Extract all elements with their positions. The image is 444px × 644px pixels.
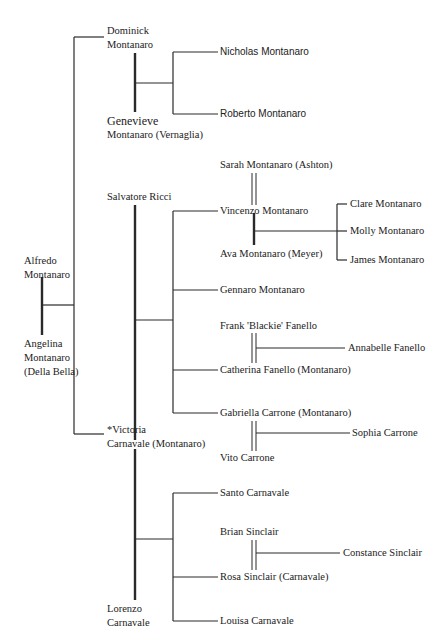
surname: Montanaro (Vernaglia) [107, 128, 203, 142]
person-louisa: Louisa Carnavale [220, 614, 294, 628]
person-brian: Brian Sinclair [220, 525, 279, 539]
person-catherina: Catherina Fanello (Montanaro) [220, 363, 351, 377]
person-rosa: Rosa Sinclair (Carnavale) [220, 570, 328, 584]
person-gabriella: Gabriella Carrone (Montanaro) [220, 406, 351, 420]
person-molly: Molly Montanaro [350, 224, 424, 238]
first-name: Angelina [24, 337, 79, 351]
person-annabelle: Annabelle Fanello [348, 341, 425, 355]
person-clare: Clare Montanaro [350, 197, 421, 211]
first-name: Genevieve [107, 114, 203, 128]
person-lorenzo: Lorenzo Carnavale [107, 602, 150, 630]
first-name: Alfredo [24, 254, 70, 268]
person-salvatore: Salvatore Ricci [107, 190, 171, 204]
person-vincenzo: Vincenzo Montanaro [220, 204, 308, 218]
family-tree-diagram: Alfredo Montanaro Angelina Montanaro (De… [0, 0, 444, 644]
person-dominick: Dominick Montanaro [107, 24, 153, 52]
person-sarah: Sarah Montanaro (Ashton) [220, 158, 333, 172]
person-victoria: *Victoria Carnavale (Montanaro) [107, 423, 205, 451]
person-alfredo: Alfredo Montanaro [24, 254, 70, 282]
surname: Montanaro [24, 268, 70, 282]
person-gennaro: Gennaro Montanaro [220, 283, 305, 297]
person-genevieve: Genevieve Montanaro (Vernaglia) [107, 114, 203, 142]
surname: Carnavale [107, 616, 150, 630]
surname: Montanaro [107, 38, 153, 52]
person-james: James Montanaro [350, 253, 424, 267]
person-constance: Constance Sinclair [343, 546, 422, 560]
first-name: Dominick [107, 24, 153, 38]
person-ava: Ava Montanaro (Meyer) [220, 247, 322, 261]
first-name: *Victoria [107, 423, 205, 437]
surname: Carnavale (Montanaro) [107, 437, 205, 451]
person-roberto: Roberto Montanaro [220, 107, 306, 121]
surname: Montanaro [24, 351, 79, 365]
person-angelina: Angelina Montanaro (Della Bella) [24, 337, 79, 379]
person-sophia: Sophia Carrone [352, 426, 418, 440]
maiden-name: (Della Bella) [24, 365, 79, 379]
person-frank: Frank 'Blackie' Fanello [220, 319, 317, 333]
person-nicholas: Nicholas Montanaro [220, 45, 309, 59]
person-santo: Santo Carnavale [220, 486, 289, 500]
first-name: Lorenzo [107, 602, 150, 616]
person-vito: Vito Carrone [220, 451, 274, 465]
